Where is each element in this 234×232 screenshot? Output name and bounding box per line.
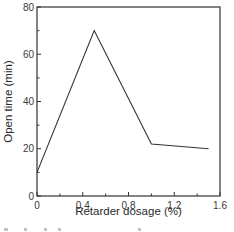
y-tick-label: 20 [23,143,35,154]
y-tick-label: 80 [23,2,35,13]
y-tick-label: 60 [23,49,35,60]
plot-frame [37,7,220,196]
y-axis-tick-labels: 020406080 [23,2,35,202]
cropped-caption-fragment [4,228,141,231]
y-tick-label: 40 [23,96,35,107]
x-tick-label: 0 [34,200,40,211]
x-axis-title: Retarder dosage (%) [75,205,182,217]
open-time-line [37,31,209,173]
x-tick-label: 1.6 [213,200,227,211]
line-chart: 020406080 00.40.81.21.6 Retarder dosage … [0,0,234,232]
y-axis-title: Open time (min) [2,60,14,143]
x-axis-ticks [37,192,220,196]
